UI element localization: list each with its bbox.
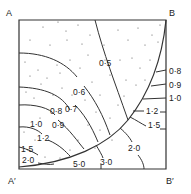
label-r-1-2: 1·2	[146, 106, 159, 116]
label-r-2-0: 2·0	[128, 143, 141, 153]
contour-r-1-0	[143, 98, 166, 99]
contour-0-6	[19, 53, 77, 77]
label-0-8: 0·8	[50, 106, 63, 116]
contour-0-7	[75, 105, 98, 142]
label-0-6: 0·6	[73, 87, 86, 97]
contour-r-0-9	[151, 84, 166, 86]
label-2-0: 2·0	[22, 155, 35, 165]
label-r-1-5: 1·5	[148, 120, 161, 130]
label-0-7: 0·7	[65, 104, 78, 114]
corner-label-b: B	[169, 8, 175, 18]
label-0-5: 0·5	[99, 58, 112, 68]
contour-diagram: A B A′ B′	[0, 0, 191, 194]
corner-label-a-prime: A′	[8, 176, 16, 186]
contour-r-1-5	[130, 117, 146, 126]
contour-0-5	[95, 20, 128, 120]
label-r-1-0: 1·0	[169, 93, 182, 103]
corner-label-a: A	[6, 8, 12, 18]
label-1-0: 1·0	[30, 119, 43, 129]
frame	[19, 20, 166, 169]
contour-1-2	[48, 140, 70, 156]
contour-r-0-8	[156, 70, 166, 72]
boundary-curve	[19, 20, 166, 167]
contour-0-8	[19, 87, 70, 110]
label-r-0-8: 0·8	[169, 66, 182, 76]
label-1-2: 1·2	[37, 133, 50, 143]
label-1-5: 1·5	[21, 144, 34, 154]
contour-0-6b	[84, 86, 110, 135]
contour-r-2-0b	[138, 155, 144, 169]
contour-r-2-0a	[120, 128, 132, 142]
label-r-0-9: 0·9	[169, 80, 182, 90]
corner-label-b-prime: B′	[166, 176, 174, 186]
label-5-0: 5·0	[73, 159, 86, 169]
label-r-3-0: 3·0	[100, 157, 113, 167]
label-0-9: 0·9	[52, 120, 65, 130]
